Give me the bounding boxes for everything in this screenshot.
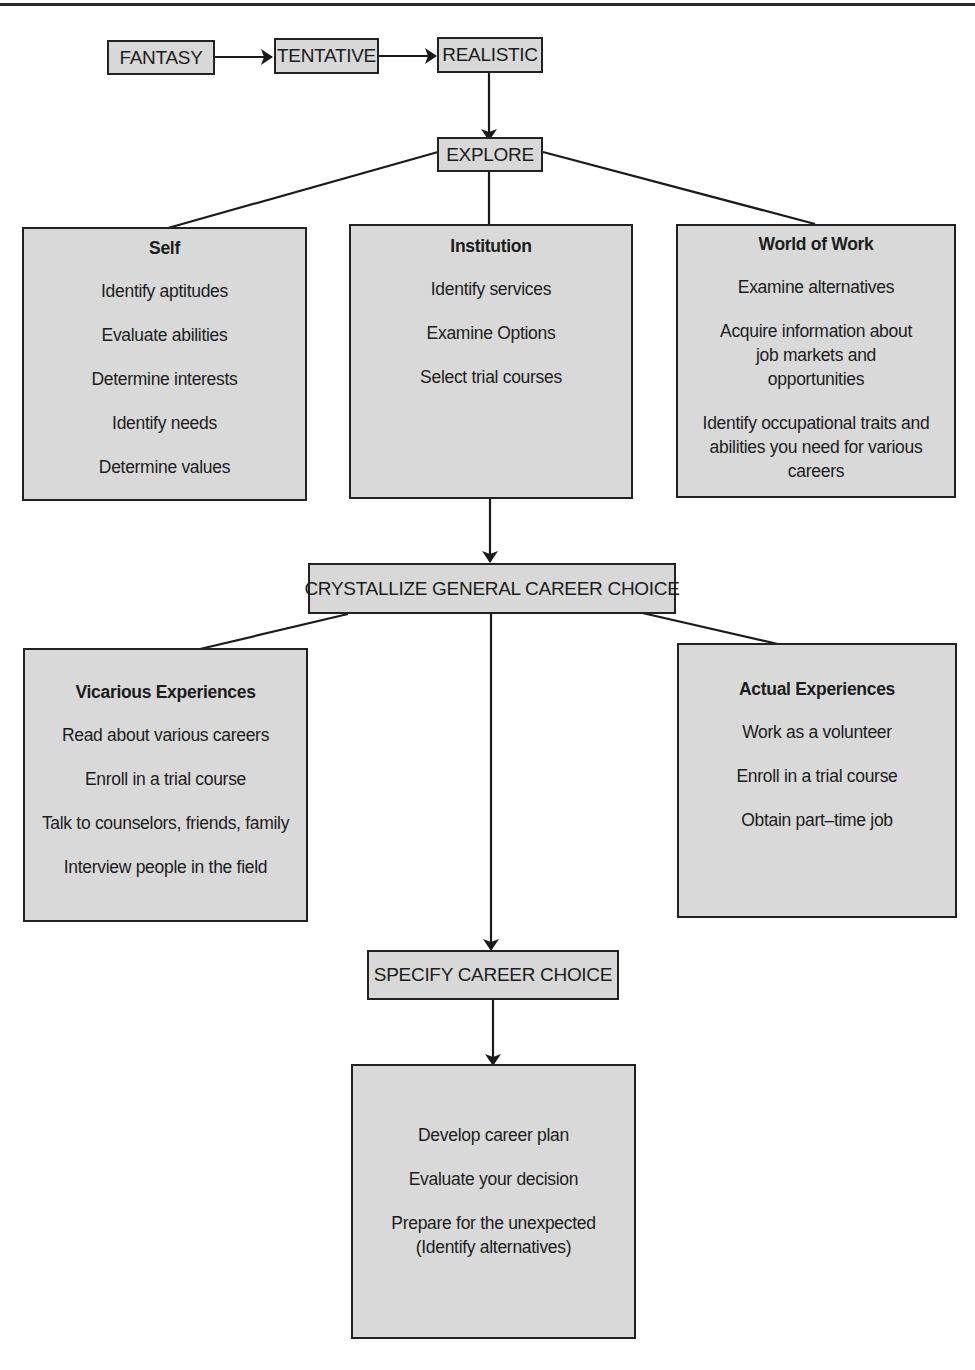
stage-realistic-label: REALISTIC [442, 44, 538, 66]
list-item: Examine Options [351, 321, 631, 345]
stage-crystallize: CRYSTALLIZE GENERAL CAREER CHOICE [308, 563, 676, 614]
stage-specify: SPECIFY CAREER CHOICE [367, 950, 619, 1000]
list-item: Prepare for the unexpected (Identify alt… [353, 1211, 634, 1259]
stage-fantasy-label: FANTASY [119, 47, 202, 69]
line-crystallize-actual [638, 612, 778, 644]
top-rule [0, 3, 975, 6]
list-item: Read about various careers [25, 723, 306, 747]
list-item: Talk to counselors, friends, family [25, 811, 306, 835]
list-item: Obtain part–time job [679, 808, 955, 832]
list-item: Identify occupational traits and abiliti… [678, 411, 954, 483]
panel-vicarious-experiences: Vicarious Experiences Read about various… [23, 648, 308, 922]
stage-fantasy: FANTASY [107, 40, 215, 75]
panel-final-actions: Develop career plan Evaluate your decisi… [351, 1064, 636, 1339]
list-item: Acquire information about job markets an… [678, 319, 954, 391]
stage-tentative: TENTATIVE [274, 38, 379, 74]
panel-vicarious-title: Vicarious Experiences [25, 682, 306, 703]
list-item: Enroll in a trial course [25, 767, 306, 791]
stage-crystallize-label: CRYSTALLIZE GENERAL CAREER CHOICE [304, 578, 679, 600]
list-item: Identify aptitudes [24, 279, 305, 303]
list-item: Determine interests [24, 367, 305, 391]
list-item-text: Acquire information about job markets an… [720, 321, 912, 389]
list-item: Develop career plan [353, 1123, 634, 1147]
list-item: Work as a volunteer [679, 720, 955, 744]
list-item: Select trial courses [351, 365, 631, 389]
panel-self: Self Identify aptitudes Evaluate abiliti… [22, 227, 307, 501]
line-explore-self [168, 152, 438, 228]
list-item: Interview people in the field [25, 855, 306, 879]
list-item: Identify needs [24, 411, 305, 435]
list-item-text: Prepare for the unexpected (Identify alt… [391, 1213, 595, 1257]
stage-tentative-label: TENTATIVE [277, 45, 376, 67]
line-crystallize-vicarious [200, 614, 348, 649]
line-explore-world [543, 152, 815, 224]
panel-world-of-work: World of Work Examine alternatives Acqui… [676, 224, 956, 498]
list-item-text: Identify occupational traits and abiliti… [703, 413, 930, 481]
panel-institution-title: Institution [351, 236, 631, 257]
panel-self-title: Self [24, 238, 305, 259]
stage-realistic: REALISTIC [437, 37, 543, 73]
list-item: Determine values [24, 455, 305, 479]
stage-explore: EXPLORE [437, 137, 543, 172]
list-item: Identify services [351, 277, 631, 301]
list-item: Enroll in a trial course [679, 764, 955, 788]
stage-specify-label: SPECIFY CAREER CHOICE [374, 964, 612, 986]
panel-institution: Institution Identify services Examine Op… [349, 224, 633, 499]
stage-explore-label: EXPLORE [446, 144, 534, 166]
list-item: Examine alternatives [678, 275, 954, 299]
list-item: Evaluate abilities [24, 323, 305, 347]
list-item: Evaluate your decision [353, 1167, 634, 1191]
panel-actual-experiences: Actual Experiences Work as a volunteer E… [677, 643, 957, 918]
panel-world-of-work-title: World of Work [678, 234, 954, 255]
panel-actual-title: Actual Experiences [679, 679, 955, 700]
